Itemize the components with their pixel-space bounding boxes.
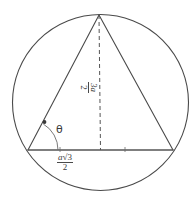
angle-arc <box>43 124 58 150</box>
triangle-left-side <box>28 15 99 150</box>
altitude-dashed-line <box>99 15 101 150</box>
geometry-figure: a√3 2 3a 2 θ <box>0 0 195 205</box>
figure-canvas <box>0 0 195 205</box>
circumscribed-circle <box>13 15 189 191</box>
angle-vertex-dot <box>43 120 47 124</box>
triangle-right-side <box>99 15 173 150</box>
